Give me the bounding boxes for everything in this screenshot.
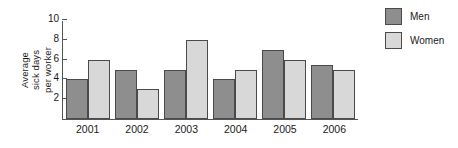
y-axis-title-line-1: Average xyxy=(19,52,31,88)
x-axis-label-2001: 2001 xyxy=(63,122,112,138)
x-axis-labels: 200120022003200420052006 xyxy=(63,122,359,138)
x-axis-label-2005: 2005 xyxy=(260,122,309,138)
legend-swatch-men xyxy=(385,8,402,25)
bar-group xyxy=(260,20,309,119)
bar-women-2003 xyxy=(186,40,208,119)
legend-label-men: Men xyxy=(410,11,429,23)
x-axis-line xyxy=(62,119,358,120)
bars-layer xyxy=(63,20,358,119)
x-axis-label-2004: 2004 xyxy=(211,122,260,138)
legend-swatch-women xyxy=(385,32,402,49)
x-axis-label-2002: 2002 xyxy=(112,122,161,138)
bar-women-2005 xyxy=(284,60,306,119)
y-axis-tick-label: 4 xyxy=(53,72,59,83)
y-axis-title: Average sick days per worker xyxy=(14,22,58,118)
bar-men-2002 xyxy=(115,70,137,120)
bar-women-2004 xyxy=(235,70,257,120)
y-axis-tick-label: 8 xyxy=(53,33,59,44)
y-axis-title-line-3: per worker xyxy=(42,47,54,93)
bar-women-2006 xyxy=(333,70,355,120)
bar-men-2005 xyxy=(262,50,284,119)
bar-chart-figure: Average sick days per worker 246810 2001… xyxy=(0,0,458,148)
y-axis-title-line-2: sick days xyxy=(30,50,42,90)
y-axis-tick-label: 2 xyxy=(53,92,59,103)
bar-women-2002 xyxy=(137,89,159,119)
x-axis-label-2003: 2003 xyxy=(162,122,211,138)
bar-men-2001 xyxy=(66,79,88,119)
legend-item-men[interactable]: Men xyxy=(385,8,455,25)
bar-group xyxy=(309,20,358,119)
bar-group xyxy=(112,20,161,119)
legend-label-women: Women xyxy=(410,35,444,47)
legend-item-women[interactable]: Women xyxy=(385,32,455,49)
x-axis-label-2006: 2006 xyxy=(310,122,359,138)
bar-men-2006 xyxy=(311,65,333,119)
y-axis-tick-label: 6 xyxy=(53,53,59,64)
bar-group xyxy=(161,20,210,119)
y-axis-tick-label: 10 xyxy=(48,13,59,24)
chart-legend: MenWomen xyxy=(385,8,455,56)
plot-area: 246810 xyxy=(62,16,358,120)
bar-men-2003 xyxy=(164,70,186,120)
bar-group xyxy=(63,20,112,119)
bar-group xyxy=(211,20,260,119)
bar-men-2004 xyxy=(213,79,235,119)
bar-women-2001 xyxy=(88,60,110,119)
